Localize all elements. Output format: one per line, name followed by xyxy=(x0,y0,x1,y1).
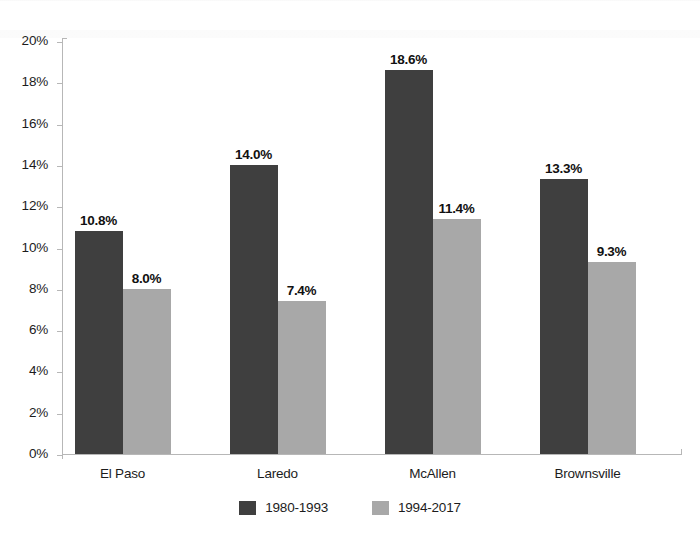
y-axis-tick-label: 8% xyxy=(29,281,48,296)
y-axis-tick-label: 14% xyxy=(22,157,48,172)
x-axis-category-label: Laredo xyxy=(230,466,326,481)
bar-group: 14.0%7.4% xyxy=(230,41,326,454)
y-axis-tick: 16% xyxy=(57,125,62,126)
bar-group: 10.8%8.0% xyxy=(75,41,171,454)
y-axis-tick: 2% xyxy=(57,414,62,415)
y-axis-tick: 0% xyxy=(57,455,62,456)
y-axis-tick-label: 4% xyxy=(29,363,48,378)
legend-swatch-icon-series-1 xyxy=(372,501,389,515)
legend-label-series-0: 1980-1993 xyxy=(265,500,328,515)
y-axis-tick-label: 6% xyxy=(29,322,48,337)
bar-value-label: 7.4% xyxy=(287,283,317,298)
chart-legend: 1980-1993 1994-2017 xyxy=(0,500,700,515)
legend-label-series-1: 1994-2017 xyxy=(398,500,461,515)
bar-value-label: 14.0% xyxy=(235,147,272,162)
x-axis-line xyxy=(62,454,682,455)
y-axis-tick: 6% xyxy=(57,331,62,332)
y-axis-tick: 14% xyxy=(57,166,62,167)
x-axis-category-label: McAllen xyxy=(385,466,481,481)
bar[interactable]: 18.6% xyxy=(385,70,433,454)
y-axis-tick-label: 20% xyxy=(22,33,48,48)
bar-value-label: 10.8% xyxy=(80,213,117,228)
bar[interactable]: 13.3% xyxy=(540,179,588,454)
legend-item-series-0[interactable]: 1980-1993 xyxy=(239,500,328,515)
y-axis-top-cap xyxy=(62,38,67,39)
bar-group: 18.6%11.4% xyxy=(385,41,481,454)
y-axis-tick-label: 12% xyxy=(22,198,48,213)
bar[interactable]: 9.3% xyxy=(588,262,636,454)
y-axis-tick-label: 16% xyxy=(22,116,48,131)
y-axis-tick-label: 10% xyxy=(22,240,48,255)
y-axis-tick: 10% xyxy=(57,249,62,250)
plot-area: 0%2%4%6%8%10%12%14%16%18%20% 10.8%8.0%14… xyxy=(62,42,682,455)
y-axis-tick: 18% xyxy=(57,83,62,84)
legend-swatch-icon-series-0 xyxy=(239,501,256,515)
x-axis-category-label: Brownsville xyxy=(540,466,636,481)
y-axis-tick: 20% xyxy=(57,42,62,43)
y-axis-tick: 8% xyxy=(57,290,62,291)
y-axis-tick-label: 0% xyxy=(29,446,48,461)
bar[interactable]: 14.0% xyxy=(230,165,278,454)
bar-chart: 0%2%4%6%8%10%12%14%16%18%20% 10.8%8.0%14… xyxy=(0,0,700,542)
bar-value-label: 8.0% xyxy=(132,271,162,286)
bar[interactable]: 8.0% xyxy=(123,289,171,454)
bar-value-label: 18.6% xyxy=(390,52,427,67)
bar[interactable]: 7.4% xyxy=(278,301,326,454)
x-axis-right-cap xyxy=(681,449,682,455)
bar[interactable]: 10.8% xyxy=(75,231,123,454)
y-axis-tick: 12% xyxy=(57,207,62,208)
bar[interactable]: 11.4% xyxy=(433,219,481,454)
x-axis-category-label: El Paso xyxy=(75,466,171,481)
y-axis-line xyxy=(62,38,63,459)
y-axis-tick-label: 2% xyxy=(29,405,48,420)
bar-value-label: 13.3% xyxy=(545,161,582,176)
bar-value-label: 9.3% xyxy=(597,244,627,259)
y-axis-tick: 4% xyxy=(57,372,62,373)
bar-group: 13.3%9.3% xyxy=(540,41,636,454)
y-axis-tick-label: 18% xyxy=(22,74,48,89)
bar-value-label: 11.4% xyxy=(438,201,474,216)
legend-item-series-1[interactable]: 1994-2017 xyxy=(372,500,461,515)
